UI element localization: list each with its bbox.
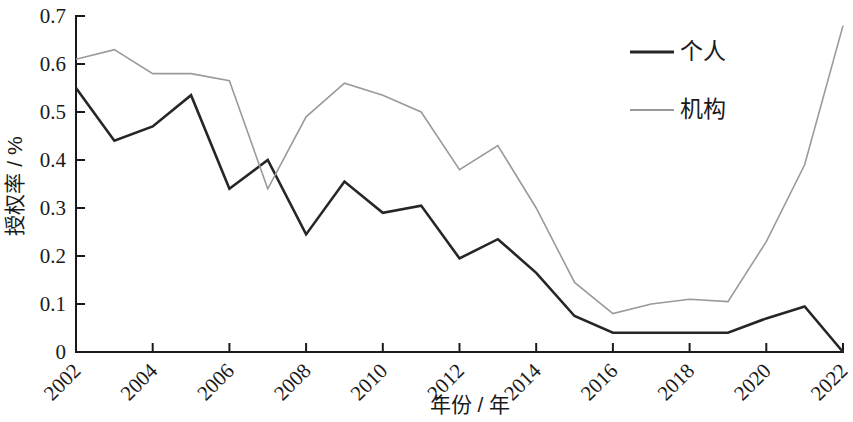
y-tick-label: 0.1 — [40, 292, 66, 316]
x-tick-label: 2006 — [192, 359, 239, 406]
x-tick-label: 2004 — [116, 358, 163, 405]
chart-figure: 00.10.20.30.40.50.60.7 20022004200620082… — [0, 0, 853, 422]
x-tick-label: 2018 — [652, 359, 699, 406]
x-tick-label: 2010 — [346, 359, 393, 406]
x-tick-label: 2016 — [576, 359, 623, 406]
x-axis-ticks — [76, 343, 843, 352]
y-axis-tick-labels: 00.10.20.30.40.50.60.7 — [40, 4, 67, 364]
series-line-individual — [76, 88, 843, 352]
legend-label: 个人 — [680, 38, 726, 64]
legend-label: 机构 — [680, 96, 726, 122]
y-tick-label: 0.3 — [40, 196, 66, 220]
y-tick-label: 0.2 — [40, 244, 66, 268]
y-tick-label: 0 — [56, 340, 67, 364]
y-tick-label: 0.7 — [40, 4, 66, 28]
line-chart-canvas: 00.10.20.30.40.50.60.7 20022004200620082… — [0, 0, 853, 422]
y-tick-label: 0.5 — [40, 100, 66, 124]
x-tick-label: 2008 — [269, 359, 316, 406]
y-axis-ticks — [76, 16, 85, 352]
data-series-group — [76, 26, 843, 352]
series-line-institution — [76, 26, 843, 314]
y-axis-title: 授权率 / % — [3, 136, 26, 235]
x-tick-label: 2002 — [39, 359, 86, 406]
y-tick-label: 0.6 — [40, 52, 66, 76]
chart-legend: 个人机构 — [630, 38, 726, 122]
y-tick-label: 0.4 — [40, 148, 67, 172]
x-tick-label: 2022 — [806, 359, 853, 406]
x-axis-title: 年份 / 年 — [430, 393, 511, 416]
x-tick-label: 2020 — [729, 359, 776, 406]
